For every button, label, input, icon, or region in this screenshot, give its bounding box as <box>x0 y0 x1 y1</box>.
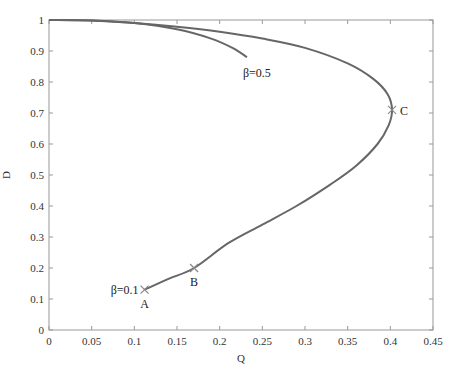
y-tick-label: 1 <box>39 14 45 26</box>
x-axis-label: Q <box>237 352 245 364</box>
x-tick-label: 0.15 <box>167 335 187 347</box>
y-tick-label: 0.9 <box>30 45 44 57</box>
x-tick-label: 0.35 <box>338 335 358 347</box>
x-tick-label: 0.3 <box>298 335 312 347</box>
y-tick-label: 0 <box>39 324 45 336</box>
plot-frame <box>49 20 433 330</box>
chart: 00.050.10.150.20.250.30.350.40.4500.10.2… <box>0 0 450 375</box>
annotation-label: β=0.1 <box>111 283 139 297</box>
y-tick-label: 0.8 <box>30 76 44 88</box>
x-tick-label: 0.45 <box>423 335 443 347</box>
x-tick-label: 0.2 <box>213 335 227 347</box>
series-lines <box>49 20 392 290</box>
x-tick-label: 0.1 <box>127 335 141 347</box>
series-line <box>49 20 247 57</box>
x-tick-label: 0.25 <box>253 335 273 347</box>
annotation-label: C <box>400 104 408 118</box>
series-line <box>49 20 392 290</box>
y-tick-label: 0.6 <box>30 138 44 150</box>
y-tick-label: 0.3 <box>30 231 44 243</box>
annotations: β=0.5β=0.1ABC <box>111 66 408 311</box>
y-axis-label: D <box>0 171 12 179</box>
y-tick-label: 0.2 <box>30 262 44 274</box>
y-tick-label: 0.7 <box>30 107 44 119</box>
annotation-label: β=0.5 <box>243 66 271 80</box>
y-tick-label: 0.1 <box>30 293 44 305</box>
annotation-label: A <box>140 297 149 311</box>
x-tick-label: 0.05 <box>82 335 102 347</box>
y-tick-label: 0.5 <box>30 169 44 181</box>
x-tick-label: 0 <box>46 335 52 347</box>
annotation-label: B <box>190 275 198 289</box>
x-tick-label: 0.4 <box>383 335 397 347</box>
axes: 00.050.10.150.20.250.30.350.40.4500.10.2… <box>30 14 443 347</box>
y-tick-label: 0.4 <box>30 200 44 212</box>
